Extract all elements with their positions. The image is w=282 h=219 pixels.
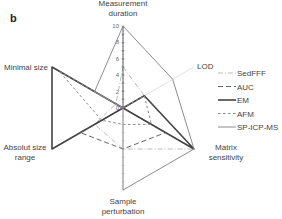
panel-label: b: [10, 12, 17, 24]
legend-item: AUC: [237, 83, 254, 92]
legend-item: AFM: [237, 110, 254, 119]
tick-label: 6: [116, 56, 120, 62]
axis-label: Measurement: [99, 0, 149, 8]
legend-item: SP-ICP-MS: [237, 123, 278, 132]
legend: SedFFFAUCEMAFMSP-ICP-MS: [218, 69, 278, 132]
legend-item: SedFFF: [237, 69, 266, 78]
axis-label: range: [15, 153, 36, 162]
axis-label: Sample: [109, 197, 137, 206]
axis-label: perturbation: [102, 207, 145, 216]
series-sedfff: [95, 67, 194, 149]
axis-label: sensitivity: [209, 153, 244, 162]
radar-series: [52, 26, 194, 190]
axis-label: Matrix: [215, 143, 237, 152]
axis-label: Absolut size: [3, 143, 47, 152]
axis-label: duration: [109, 9, 138, 18]
tick-label: 10: [112, 23, 119, 29]
radar-chart: b 0246810 MeasurementdurationLODMatrixse…: [0, 0, 282, 219]
legend-item: EM: [237, 96, 249, 105]
axis-label: Minimal size: [4, 63, 49, 72]
axis-label: LOD: [197, 62, 214, 71]
tick-label: 4: [116, 72, 120, 78]
series-sp-icp-ms: [95, 26, 194, 190]
